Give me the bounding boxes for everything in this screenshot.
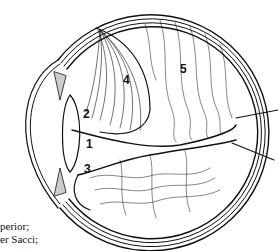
- label-2: 2: [83, 108, 90, 120]
- label-4: 4: [123, 74, 130, 86]
- label-3: 3: [84, 163, 91, 175]
- eye-illustration: [0, 0, 278, 251]
- label-5: 5: [180, 63, 187, 75]
- label-1: 1: [86, 138, 93, 150]
- caption-line-1: perior;: [0, 221, 29, 232]
- caption-line-2: er Sacci;: [0, 234, 38, 245]
